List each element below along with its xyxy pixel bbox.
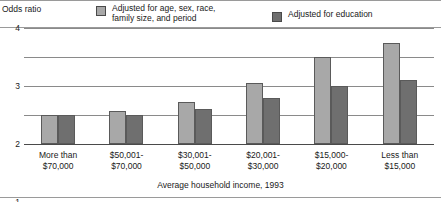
legend-item-adjusted-demographics: Adjusted for age, sex, race, family size… <box>96 4 215 23</box>
x-axis-title: Average household income, 1993 <box>0 180 441 190</box>
x-axis-tick-labels: More than $70,000$50,001- $70,000$30,001… <box>24 150 434 171</box>
x-axis-tick-label: $50,001- $70,000 <box>92 150 160 171</box>
bar <box>383 43 400 145</box>
x-axis-line: 0 <box>24 144 434 145</box>
legend-label-dark: Adjusted for education <box>288 10 373 20</box>
bottom-rule <box>0 197 441 198</box>
chart-figure: Odds ratio Adjusted for age, sex, race, … <box>0 0 441 202</box>
top-rule <box>0 0 441 1</box>
x-axis-tick-label: $20,001- $30,000 <box>229 150 297 171</box>
bar-pair <box>41 115 75 144</box>
bar <box>41 115 58 144</box>
bar-group <box>161 28 229 144</box>
bar-pair <box>109 111 143 144</box>
x-axis-tick-label: $15,000- $20,000 <box>297 150 365 171</box>
bar-group <box>92 28 160 144</box>
bar-group <box>297 28 365 144</box>
legend: Adjusted for age, sex, race, family size… <box>0 4 441 30</box>
legend-swatch-icon-light <box>96 6 106 16</box>
bar-groups <box>24 28 434 144</box>
y-axis-tick-label: 3 <box>15 82 20 91</box>
x-axis-tick-label: Less than $15,000 <box>366 150 434 171</box>
bar-pair <box>178 102 212 144</box>
y-axis-tick-label: 4 <box>15 24 20 33</box>
bar <box>126 115 143 144</box>
bar <box>246 83 263 144</box>
legend-label-light: Adjusted for age, sex, race, family size… <box>112 4 215 23</box>
y-axis-tick-label: 2 <box>15 140 20 149</box>
x-axis-tick-label: More than $70,000 <box>24 150 92 171</box>
bar <box>58 115 75 144</box>
bar-pair <box>383 43 417 145</box>
bar <box>263 98 280 144</box>
bar-pair <box>314 57 348 144</box>
bar-group <box>229 28 297 144</box>
bar <box>400 80 417 144</box>
bar <box>178 102 195 144</box>
bar <box>109 111 126 144</box>
y-axis-tick-label: 1 <box>15 198 20 202</box>
bar-pair <box>246 83 280 144</box>
bar <box>195 109 212 144</box>
plot-area: 43210 <box>24 28 434 144</box>
x-axis-tick-label: $30,001- $50,000 <box>161 150 229 171</box>
bar <box>331 86 348 144</box>
bar-group <box>24 28 92 144</box>
bar <box>314 57 331 144</box>
bar-group <box>366 28 434 144</box>
legend-item-adjusted-education: Adjusted for education <box>272 10 373 22</box>
legend-swatch-icon-dark <box>272 12 282 22</box>
